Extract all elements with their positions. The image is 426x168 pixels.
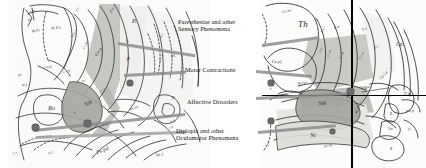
atlas-figure: s.mPfM.FiM.FaCeZ.oV.o.iV.i.mV.o.pP.i.pZ.…	[0, 0, 426, 168]
electrode-dot	[330, 129, 335, 134]
anatomical-label-pm: P.m	[404, 92, 411, 97]
anatomical-label-b: B	[172, 96, 176, 101]
electrode-dot	[268, 80, 274, 86]
electrode-dot	[127, 80, 133, 86]
anatomical-label-sth: Sth	[318, 100, 327, 107]
anatomical-label-th: Th	[298, 20, 308, 29]
anatomical-label-ru: Ru	[48, 105, 56, 112]
anatomical-label-ie: I.e	[13, 152, 18, 156]
anatomical-label-cp: Cp.	[396, 42, 404, 47]
crosshair-vertical-line	[351, 0, 353, 168]
callout-affective-disorders: Affective Disorders	[187, 98, 238, 105]
right-atlas-plate: Ce.mcThCe.pfZ.o.iZ.mZ.oV.o.iV.i.mV.o.pV.…	[262, 0, 426, 168]
anatomical-label-p: p	[127, 56, 130, 62]
anatomical-label-si: Si	[408, 128, 411, 132]
anatomical-label-pmp: pm.p	[406, 110, 414, 114]
callout-oculomotor-phenomena: Diplopia and other Oculomotor Phenomena	[176, 127, 238, 142]
anatomical-label-g: g	[390, 146, 392, 150]
anatomical-label-pf: Pf	[28, 19, 32, 23]
anatomical-label-cepf: Ce.pf	[272, 60, 282, 64]
callout-motor-contractions: Motor Contractions	[185, 66, 235, 73]
anatomical-label-ie: i.e	[267, 142, 271, 146]
anatomical-label-pdi: pd.i	[366, 86, 372, 90]
anatomical-label-ni: Ni	[310, 132, 316, 138]
callout-sensory-phenomena: Paresthesiae and other Sensory Phenomena	[178, 18, 236, 33]
anatomical-label-tm: Tm	[388, 128, 393, 132]
electrode-dot	[347, 88, 354, 95]
electrode-dot	[32, 124, 39, 131]
electrode-dot	[84, 120, 91, 127]
electrode-dot	[268, 118, 274, 124]
right-plate-linework	[262, 0, 426, 168]
anatomical-label-p: P.	[132, 18, 137, 24]
anatomical-label-l: L	[390, 112, 393, 117]
anatomical-label-s: s	[270, 88, 272, 92]
anatomical-label-vel: Ve.l	[156, 153, 164, 158]
